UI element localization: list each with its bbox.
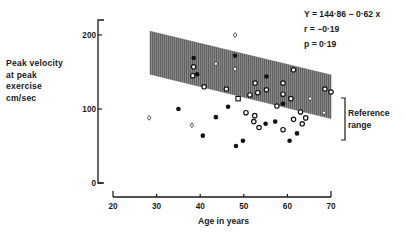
open-diamond-marker	[147, 115, 151, 120]
open-circle-marker	[253, 81, 257, 85]
open-circle-marker	[253, 113, 257, 117]
x-axis-label: Age in years	[198, 216, 249, 226]
open-circle-marker	[291, 117, 295, 121]
filled-circle-marker	[263, 122, 268, 127]
filled-circle-marker	[234, 144, 239, 149]
open-circle-marker	[248, 93, 252, 97]
open-circle-marker	[264, 88, 268, 92]
reference-range-bracket	[341, 98, 345, 140]
open-circle-marker	[252, 119, 256, 123]
regression-equation: Y = 144·86 − 0·62 x	[304, 9, 381, 19]
open-circle-marker	[281, 92, 285, 96]
x-tick-label: 50	[239, 202, 249, 211]
open-circle-marker	[300, 122, 304, 126]
open-circle-marker	[275, 104, 279, 108]
x-tick-label: 70	[326, 202, 336, 211]
p-value: p = 0·19	[304, 39, 336, 49]
filled-circle-marker	[201, 133, 206, 138]
filled-circle-marker	[214, 115, 219, 120]
reference-range-label-line-2: range	[348, 120, 372, 130]
open-circle-marker	[281, 128, 285, 132]
filled-circle-marker	[287, 139, 292, 144]
filled-circle-marker	[273, 119, 278, 124]
open-circle-marker	[323, 87, 327, 91]
x-tick-label: 20	[108, 202, 118, 211]
open-circle-marker	[244, 111, 248, 115]
open-circle-marker	[304, 116, 308, 120]
y-tick-label: 100	[82, 105, 96, 114]
open-square-marker	[236, 96, 240, 100]
filled-circle-marker	[281, 102, 286, 107]
scatter-plot: 0100200203040506070 Y = 144·86 − 0·62 x …	[0, 0, 405, 238]
y-tick-label: 200	[82, 31, 96, 40]
x-tick-label: 30	[152, 202, 162, 211]
filled-circle-marker	[176, 107, 181, 112]
open-circle-marker	[257, 125, 261, 129]
filled-circle-marker	[191, 56, 196, 61]
open-circle-marker	[224, 87, 228, 91]
filled-circle-marker	[241, 139, 246, 144]
filled-circle-marker	[226, 104, 231, 109]
open-circle-marker	[298, 110, 302, 114]
open-circle-marker	[256, 91, 260, 95]
x-tick-label: 60	[283, 202, 293, 211]
filled-circle-marker	[195, 72, 200, 77]
open-circle-marker	[329, 90, 333, 94]
open-circle-marker	[191, 74, 195, 78]
x-tick-label: 40	[196, 202, 206, 211]
open-circle-marker	[281, 81, 285, 85]
filled-circle-marker	[264, 74, 269, 79]
open-circle-marker	[202, 85, 206, 89]
y-tick-label: 0	[91, 179, 96, 188]
open-diamond-marker	[190, 123, 194, 128]
y-axis-line	[98, 20, 104, 183]
open-diamond-marker	[233, 33, 237, 38]
reference-range-label-line-1: Reference	[348, 108, 390, 118]
filled-circle-marker	[295, 131, 300, 136]
correlation-r: r = −0·19	[304, 24, 340, 34]
open-circle-marker	[191, 65, 195, 69]
filled-circle-marker	[233, 53, 238, 58]
open-circle-marker	[289, 96, 293, 100]
open-circle-marker	[291, 68, 295, 72]
